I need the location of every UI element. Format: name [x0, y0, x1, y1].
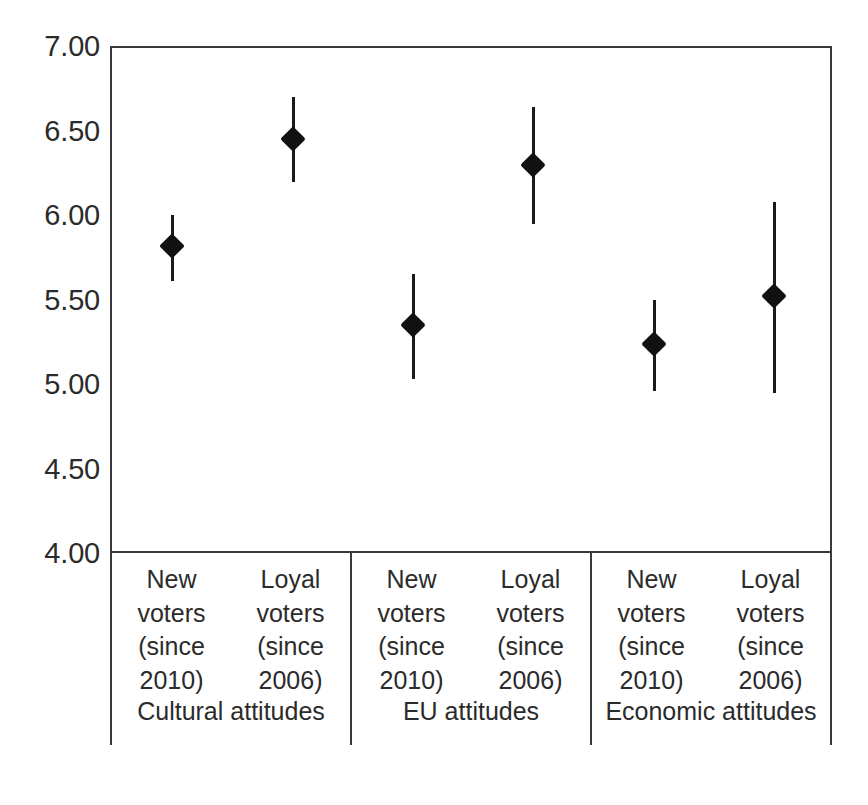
x-axis-category-line: voters — [352, 597, 471, 631]
x-axis-category-label: Newvoters(since2010) — [592, 553, 711, 693]
x-axis-category-line: Loyal — [231, 563, 350, 597]
x-axis-category-line: voters — [112, 597, 231, 631]
y-axis-tick-label: 4.00 — [4, 539, 100, 568]
x-axis-category-line: 2010) — [352, 664, 471, 698]
plot-area — [110, 46, 832, 553]
x-axis-category-label: Newvoters(since2010) — [352, 553, 471, 693]
x-axis-category-line: (since — [592, 630, 711, 664]
x-axis-group-cultural-attitudes: Newvoters(since2010)Loyalvoters(since200… — [112, 553, 350, 745]
x-axis-category-line: 2006) — [231, 664, 350, 698]
x-axis-category-label: Loyalvoters(since2006) — [231, 553, 350, 693]
x-axis-category-line: New — [592, 563, 711, 597]
x-axis-category-label: Newvoters(since2010) — [112, 553, 231, 693]
x-axis-label-block: Newvoters(since2010)Loyalvoters(since200… — [110, 553, 832, 745]
x-axis-category-row: Newvoters(since2010)Loyalvoters(since200… — [352, 553, 590, 693]
x-axis-category-line: (since — [231, 630, 350, 664]
x-axis-group-eu-attitudes: Newvoters(since2010)Loyalvoters(since200… — [350, 553, 590, 745]
chart-figure: 7.006.506.005.505.004.504.00 Newvoters(s… — [0, 0, 868, 805]
y-axis-tick-label: 5.50 — [4, 285, 100, 314]
x-axis-category-line: (since — [112, 630, 231, 664]
y-axis-tick-label: 7.00 — [4, 32, 100, 61]
x-axis-category-line: New — [352, 563, 471, 597]
x-axis-category-line: 2006) — [711, 664, 830, 698]
x-axis-category-line: Loyal — [471, 563, 590, 597]
diamond-marker — [280, 127, 305, 152]
diamond-marker — [641, 331, 666, 356]
data-layer — [112, 48, 830, 551]
diamond-marker — [761, 284, 786, 309]
x-axis-category-line: voters — [711, 597, 830, 631]
x-axis-group-economic-attitudes: Newvoters(since2010)Loyalvoters(since200… — [590, 553, 830, 745]
x-axis-category-label: Loyalvoters(since2006) — [711, 553, 830, 693]
y-axis-tick-label: 5.00 — [4, 370, 100, 399]
x-axis-category-line: 2010) — [112, 664, 231, 698]
diamond-marker — [400, 312, 425, 337]
x-axis-category-line: voters — [471, 597, 590, 631]
x-axis-category-label: Loyalvoters(since2006) — [471, 553, 590, 693]
x-axis-category-line: voters — [592, 597, 711, 631]
x-axis-category-line: (since — [471, 630, 590, 664]
x-axis-group-title: EU attitudes — [352, 693, 590, 745]
x-axis-group-title: Cultural attitudes — [112, 693, 350, 745]
x-axis-category-line: voters — [231, 597, 350, 631]
y-axis-tick-label: 6.00 — [4, 201, 100, 230]
x-axis-category-line: 2010) — [592, 664, 711, 698]
x-axis-category-row: Newvoters(since2010)Loyalvoters(since200… — [112, 553, 350, 693]
x-axis-category-line: Loyal — [711, 563, 830, 597]
x-axis-category-line: 2006) — [471, 664, 590, 698]
x-axis-group-title: Economic attitudes — [592, 693, 830, 745]
y-axis-tick-labels: 7.006.506.005.505.004.504.00 — [0, 0, 100, 805]
y-axis-tick-label: 6.50 — [4, 116, 100, 145]
diamond-marker — [520, 152, 545, 177]
x-axis-category-line: (since — [352, 630, 471, 664]
y-axis-tick-label: 4.50 — [4, 454, 100, 483]
x-axis-category-line: New — [112, 563, 231, 597]
x-axis-category-row: Newvoters(since2010)Loyalvoters(since200… — [592, 553, 830, 693]
x-axis-category-line: (since — [711, 630, 830, 664]
diamond-marker — [159, 233, 184, 258]
